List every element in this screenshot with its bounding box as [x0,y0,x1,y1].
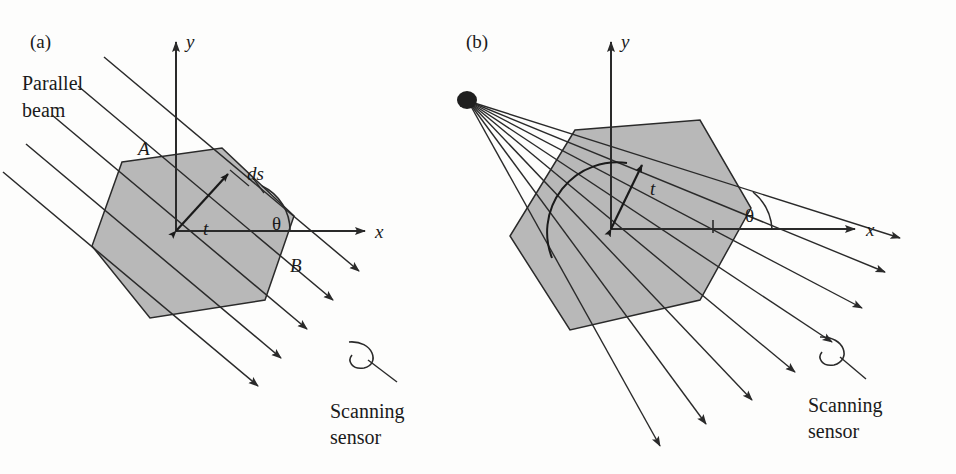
sensor-label-a-line1: Scanning [330,400,404,423]
y-axis-label-a: y [184,31,195,52]
x-axis-label-a: x [374,221,384,242]
object-hexagon-b [510,120,751,330]
figure-root: (a) Parallel beam y x t [0,0,956,474]
point-b-label: B [290,255,302,276]
point-source-b [457,91,477,109]
theta-arc-b [753,192,772,229]
sensor-label-b-line1: Scanning [808,394,882,417]
t-label-b: t [650,178,656,199]
ds-label-a: ds [247,163,264,184]
sensor-label-b-line2: sensor [808,420,859,442]
parallel-beam-label-line2: beam [22,99,66,121]
tomography-diagram: (a) Parallel beam y x t [0,0,956,474]
panel-b-label: (b) [466,31,488,53]
panel-a: (a) Parallel beam y x t [3,31,404,448]
panel-a-label: (a) [30,31,51,53]
theta-label-a: θ [272,213,281,234]
x-axis-label-b: x [865,219,875,240]
point-a-label: A [136,138,150,159]
sensor-leader-b [840,357,866,379]
y-axis-label-b: y [619,31,630,52]
theta-label-b: θ [745,205,754,226]
t-label-a: t [203,218,209,239]
parallel-beam-label-line1: Parallel [22,72,84,94]
sensor-hook-a [349,342,373,368]
sensor-leader-a [368,360,397,382]
sensor-label-a-line2: sensor [330,426,381,448]
panel-b: (b) y x [457,31,900,446]
